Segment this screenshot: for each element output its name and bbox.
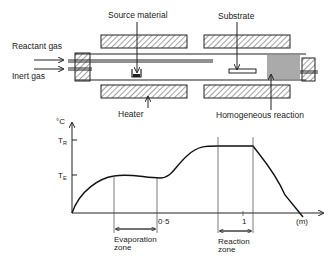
reactor-tube <box>68 53 318 81</box>
inert-gas-label: Inert gas <box>12 71 45 81</box>
zone-guides <box>114 137 253 233</box>
svg-text:TE: TE <box>58 171 67 181</box>
svg-text:zone: zone <box>218 245 236 254</box>
substrate-label: Substrate <box>218 11 255 21</box>
homogeneous-reaction-label: Homogeneous reaction <box>216 110 304 120</box>
y-unit: °C <box>56 117 65 126</box>
svg-text:(m): (m) <box>296 217 308 226</box>
source-material-label: Source material <box>108 10 168 20</box>
svg-text:1: 1 <box>242 217 247 226</box>
svg-text:0·5: 0·5 <box>158 217 170 226</box>
reactant-gas-label: Reactant gas <box>12 41 62 51</box>
heater-blocks <box>101 35 290 98</box>
temperature-curve <box>72 146 303 217</box>
heater-label: Heater <box>118 109 144 119</box>
substrate <box>229 69 256 73</box>
homogeneous-reaction-zone <box>267 55 300 79</box>
svg-text:zone: zone <box>114 243 132 252</box>
svg-text:TR: TR <box>58 136 67 146</box>
cvd-diagram: Source material Substrate Reactant gas I… <box>0 0 331 267</box>
